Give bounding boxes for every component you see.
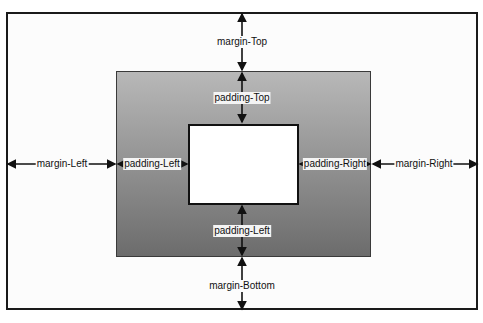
padding-top-label: padding-Top: [213, 92, 270, 104]
margin-bottom-label: margin-Bottom: [208, 280, 276, 292]
padding-bottom-label: padding-Left: [213, 225, 271, 237]
margin-right-label: margin-Right: [394, 158, 453, 170]
padding-left-label: padding-Left: [123, 158, 181, 170]
margin-top-label: margin-Top: [216, 36, 268, 48]
padding-right-label: padding-Right: [303, 158, 367, 170]
margin-left-label: margin-Left: [36, 158, 89, 170]
